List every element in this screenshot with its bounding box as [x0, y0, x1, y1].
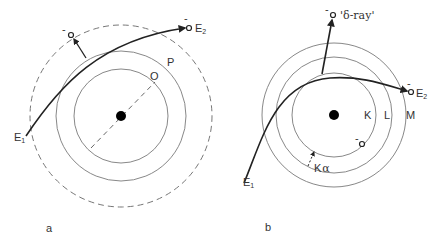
e1-label: E1 — [243, 176, 254, 189]
delta-ray-electron — [331, 13, 336, 18]
nucleus — [116, 111, 126, 121]
ejected-electron — [69, 33, 74, 38]
panel-caption-a: a — [46, 222, 53, 234]
panel-caption-b: b — [265, 221, 271, 233]
e2-label: E2 — [195, 22, 206, 35]
panel-b: - E2 - 'δ-ray' - Kα K L M E1 b — [243, 3, 427, 233]
ejection-arrow — [74, 39, 86, 58]
delta-ray-label: 'δ-ray' — [340, 9, 374, 22]
delta-charge: - — [325, 3, 329, 15]
incident-electron-trajectory — [26, 28, 185, 136]
shell-label-K: K — [364, 109, 372, 121]
outgoing-electron — [409, 90, 414, 95]
k-shell-electron — [360, 142, 365, 147]
outgoing-charge: - — [184, 12, 188, 24]
k-alpha-label: Kα — [314, 162, 330, 175]
shell-label-P: P — [167, 56, 174, 68]
shell-label-O: O — [150, 70, 159, 82]
ejected-charge: - — [62, 23, 66, 35]
atomic-interaction-diagram: - E2 - O P E1 a - E2 - 'δ-ray' - Kα K L … — [0, 0, 440, 244]
panel-a: - E2 - O P E1 a — [14, 12, 212, 234]
outgoing-charge: - — [407, 77, 411, 89]
shell-label-L: L — [384, 109, 390, 121]
shell-label-M: M — [406, 109, 415, 121]
vacancy-charge: - — [355, 132, 359, 144]
outgoing-electron — [187, 26, 192, 31]
e1-label: E1 — [14, 131, 25, 144]
nucleus — [329, 110, 339, 120]
delta-ray-track — [322, 20, 332, 74]
e2-label: E2 — [416, 87, 427, 100]
